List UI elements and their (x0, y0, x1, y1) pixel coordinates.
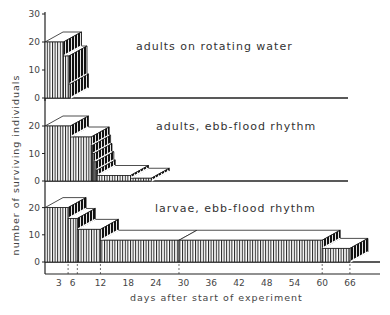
x-tick-label: 24 (150, 278, 162, 288)
panel-1: 0102030 (29, 9, 348, 103)
y-tick-label: 10 (29, 65, 41, 75)
x-tick-label: 48 (261, 278, 273, 288)
x-tick-label: 3 (56, 278, 62, 288)
panel-2: 01020 (29, 98, 348, 186)
x-axis: 3612182430364248546066 (45, 274, 380, 288)
y-tick-label: 10 (29, 149, 41, 159)
bar-front-face (45, 208, 68, 262)
survivorship-chart: 01020300102001020 3612182430364248546066… (0, 0, 390, 315)
x-tick-label: 60 (316, 278, 328, 288)
panel-title-3: larvae, ebb-flood rhythm (155, 202, 316, 215)
x-tick-label: 30 (178, 278, 190, 288)
x-axis-label: days after start of experiment (130, 292, 303, 303)
bar-top-face (179, 230, 340, 240)
x-tick-label: 66 (344, 278, 356, 288)
y-tick-label: 0 (34, 176, 40, 186)
panel-title-2: adults, ebb-flood rhythm (156, 120, 316, 133)
x-tick-label: 12 (95, 278, 106, 288)
bar-front-face (45, 42, 63, 98)
y-tick-label: 20 (29, 203, 41, 213)
bar-front-face (70, 137, 91, 181)
bar-front-face (130, 178, 151, 181)
x-tick-label: 6 (70, 278, 76, 288)
bar-front-face (63, 56, 69, 98)
bar-front-face (77, 229, 100, 262)
bar-front-face (68, 218, 77, 262)
y-tick-label: 20 (29, 37, 41, 47)
bar-front-face (100, 240, 179, 262)
x-tick-label: 18 (122, 278, 134, 288)
y-tick-label: 30 (29, 9, 41, 19)
y-axis-label: number of surviving individuals (10, 75, 21, 256)
bar-front-face (179, 240, 322, 262)
bar-front-face (322, 248, 350, 262)
panel-3: 01020 (29, 184, 380, 274)
bar-front-face (97, 176, 130, 182)
y-tick-label: 20 (29, 121, 41, 131)
panel-title-1: adults on rotating water (136, 40, 293, 53)
y-tick-label: 10 (29, 230, 41, 240)
y-tick-label: 0 (34, 93, 40, 103)
y-tick-label: 0 (34, 257, 40, 267)
x-tick-label: 54 (289, 278, 301, 288)
x-tick-label: 42 (233, 278, 244, 288)
bar-front-face (45, 126, 70, 181)
x-tick-label: 36 (206, 278, 218, 288)
bar-front-face (69, 84, 70, 98)
